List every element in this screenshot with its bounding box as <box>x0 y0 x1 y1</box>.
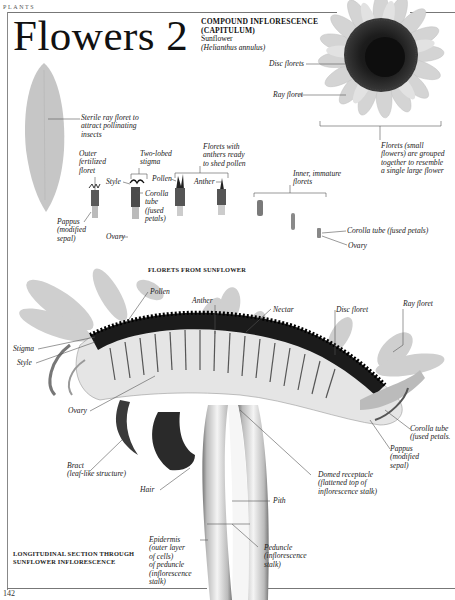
caption-longitudinal-section: LONGITUDINAL SECTION THROUGH SUNFLOWER I… <box>13 550 134 566</box>
label-sterile-ray-floret: Sterile ray floret to attract pollinatin… <box>81 114 139 139</box>
label-corolla-tube-floret: Corolla tube (fused petals) <box>145 190 168 224</box>
label-ray-floret-top: Ray floret <box>273 91 303 99</box>
caption-florets-from-sunflower: FLORETS FROM SUNFLOWER <box>148 266 246 274</box>
label-anther-section: Anther <box>192 297 213 305</box>
label-florets-with-anthers: Florets with anthers ready to shed polle… <box>203 143 246 168</box>
label-pollen-section: Pollen <box>150 288 170 296</box>
label-peduncle: Peduncle (inflorescence stalk) <box>264 544 307 569</box>
label-bract-section: Bract (leaf-like structure) <box>67 462 126 479</box>
sunflower-head-illustration <box>318 0 445 118</box>
label-ovary-section: Ovary <box>68 407 87 415</box>
label-ray-floret-section: Ray floret <box>403 300 433 308</box>
label-style-section: Style <box>17 359 32 367</box>
label-corolla-tube-right: Corolla tube (fused petals) <box>347 227 428 235</box>
label-ovary-floret: Ovary <box>106 233 125 241</box>
label-pappus-section: Pappus (modified sepal) <box>390 445 419 470</box>
label-epidermis: Epidermis (outer layer of cells) of pedu… <box>149 536 192 586</box>
label-pith: Pith <box>273 497 286 505</box>
label-corolla-tube-section: Corolla tube (fused petals. <box>410 425 451 442</box>
label-inner-immature-florets: Inner, immature florets <box>293 170 341 187</box>
label-style-floret: Style <box>106 178 121 186</box>
page-number: 142 <box>3 589 15 598</box>
illustrations <box>0 0 455 600</box>
label-florets-grouped: Florets (small flowers) are grouped toge… <box>381 142 445 176</box>
sterile-ray-floret-illustration <box>25 63 80 212</box>
label-disc-floret-section: Disc floret <box>336 306 368 314</box>
label-domed-receptacle: Domed receptacle (flattened top of inflo… <box>318 471 377 496</box>
label-nectar-section: Nectar <box>273 306 294 314</box>
label-stigma-section: Stigma <box>13 345 34 353</box>
label-two-lobed-stigma: Two-lobed stigma <box>140 150 172 167</box>
label-ovary-right: Ovary <box>348 242 367 250</box>
label-anther-floret: Anther <box>194 178 215 186</box>
label-pollen-floret: Pollen <box>152 175 172 183</box>
label-hair-section: Hair <box>140 486 154 494</box>
label-pappus-floret: Pappus (modified sepal) <box>57 218 86 243</box>
label-outer-fertilized-floret: Outer fertilized floret <box>79 150 106 175</box>
label-disc-florets: Disc florets <box>269 60 304 68</box>
